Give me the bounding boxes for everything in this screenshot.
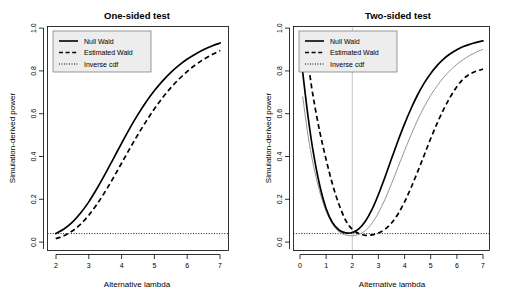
x-tick-label-right-4: 4	[403, 262, 407, 269]
y-tick-label-left-4: 0.8	[30, 66, 37, 76]
x-tick-label-right-7: 7	[481, 262, 485, 269]
x-axis-left: 2 3 4 5 6 7	[54, 255, 222, 270]
legend-right: Null Wald Estimated Wald Inverse cdf	[299, 31, 397, 72]
y-tick-label-left-1: 0.2	[30, 194, 37, 204]
y-tick-label-left-3: 0.6	[30, 109, 37, 119]
x-tick-label-right-6: 6	[455, 262, 459, 269]
y-tick-label-right-1: 0.2	[276, 194, 283, 204]
two-sided-plot-svg: Two-sided test 0.0 0.2 0.4 0.6 0.8 1.0	[261, 0, 523, 296]
x-axis-label-left: Alternative lambda	[104, 280, 171, 289]
series-curve-inverse-cdf-right	[303, 49, 483, 235]
x-tick-label-left-2: 4	[120, 262, 124, 269]
y-ticks-right	[285, 28, 290, 242]
x-ticks-left	[56, 255, 220, 260]
series-curve-estimated-wald-left	[56, 51, 221, 239]
x-tick-label-right-2: 2	[350, 262, 354, 269]
legend-label-estimated-wald-right: Estimated Wald	[330, 49, 379, 56]
y-tick-label-right-5: 1.0	[276, 23, 283, 33]
y-tick-label-right-4: 0.8	[276, 66, 283, 76]
x-ticks-right	[300, 255, 483, 260]
y-tick-label-right-2: 0.4	[276, 152, 283, 162]
panel-title-left: One-sided test	[104, 10, 171, 21]
legend-label-estimated-wald-left: Estimated Wald	[84, 49, 133, 56]
legend-label-inverse-cdf-right: Inverse cdf	[330, 61, 364, 68]
y-tick-label-left-0: 0.0	[30, 237, 37, 247]
figure-container: One-sided test 0.0 0.2 0.4 0.6 0.8 1.0	[0, 0, 523, 296]
x-tick-label-right-1: 1	[324, 262, 328, 269]
x-tick-label-right-5: 5	[429, 262, 433, 269]
legend-label-null-wald-left: Null Wald	[84, 38, 114, 45]
y-axis-left: 0.0 0.2 0.4 0.6 0.8 1.0	[30, 23, 44, 249]
y-axis-right: 0.0 0.2 0.4 0.6 0.8 1.0	[276, 23, 290, 249]
x-tick-label-right-0: 0	[298, 262, 302, 269]
legend-label-inverse-cdf-left: Inverse cdf	[84, 61, 118, 68]
y-axis-label-right: Simulation-derived power	[264, 93, 273, 184]
one-sided-plot-svg: One-sided test 0.0 0.2 0.4 0.6 0.8 1.0	[0, 0, 262, 296]
legend-label-null-wald-right: Null Wald	[330, 38, 360, 45]
x-axis-label-right: Alternative lambda	[359, 280, 426, 289]
chart-panel-two-sided: Two-sided test 0.0 0.2 0.4 0.6 0.8 1.0	[261, 0, 523, 296]
x-tick-label-right-3: 3	[376, 262, 380, 269]
x-axis-right: 0 1 2 3 4 5 6 7	[298, 255, 485, 270]
y-tick-label-left-2: 0.4	[30, 152, 37, 162]
panel-title-right: Two-sided test	[365, 10, 432, 21]
y-ticks-left	[39, 28, 44, 242]
x-tick-label-left-4: 6	[185, 262, 189, 269]
y-tick-label-left-5: 1.0	[30, 23, 37, 33]
x-tick-label-left-1: 3	[87, 262, 91, 269]
x-tick-label-left-0: 2	[54, 262, 58, 269]
y-axis-label-left: Simulation-derived power	[8, 93, 17, 184]
x-tick-label-left-5: 7	[218, 262, 222, 269]
y-tick-label-right-0: 0.0	[276, 237, 283, 247]
legend-left: Null Wald Estimated Wald Inverse cdf	[53, 31, 151, 72]
chart-panel-one-sided: One-sided test 0.0 0.2 0.4 0.6 0.8 1.0	[0, 0, 262, 296]
x-tick-label-left-3: 5	[152, 262, 156, 269]
y-tick-label-right-3: 0.6	[276, 109, 283, 119]
